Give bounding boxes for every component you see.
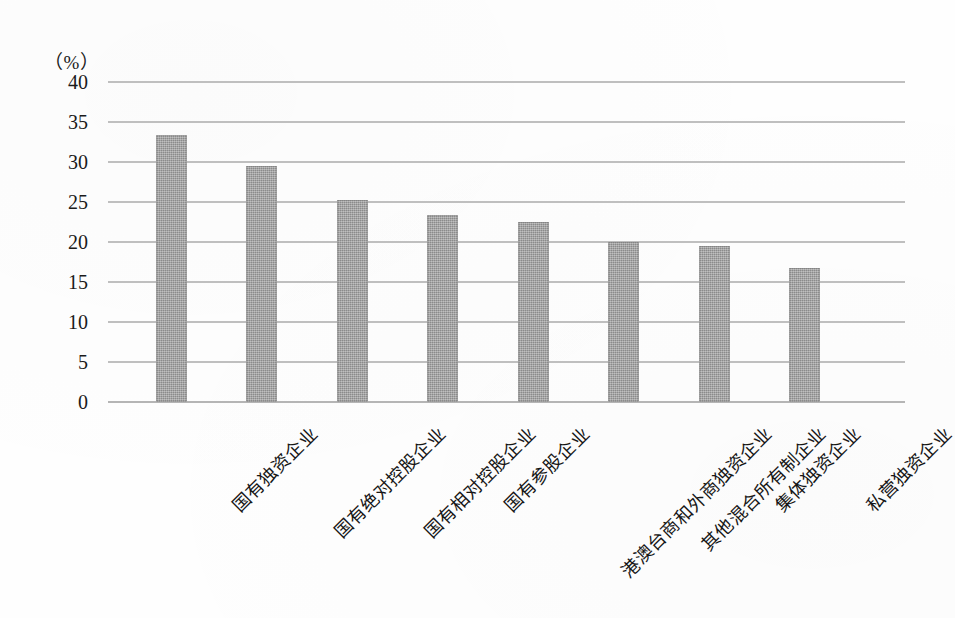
x-axis-tick-label: 国有独资企业 [230, 424, 322, 516]
y-axis-unit-label: （%） [44, 47, 99, 74]
gridline [108, 201, 905, 203]
bar [246, 166, 277, 402]
y-axis-tick-label: 25 [42, 192, 88, 212]
gridline [108, 81, 905, 83]
axis-baseline [108, 401, 905, 403]
bar [337, 200, 368, 402]
gridline [108, 321, 905, 323]
bar [608, 242, 639, 402]
y-axis-tick-label: 5 [42, 352, 88, 372]
gridline [108, 121, 905, 123]
y-axis-tick-label: 20 [42, 232, 88, 252]
y-axis-tick-label: 35 [42, 112, 88, 132]
x-axis-tick-label: 私营独资企业 [863, 424, 955, 516]
gridline [108, 281, 905, 283]
bar [156, 135, 187, 402]
y-axis-tick-label: 40 [42, 72, 88, 92]
gridline [108, 161, 905, 163]
y-axis-tick-label: 0 [42, 392, 88, 412]
gridline [108, 241, 905, 243]
y-axis-tick-label: 10 [42, 312, 88, 332]
bar-chart: （%） 0510152025303540 国有独资企业国有绝对控股企业国有相对控… [0, 0, 955, 618]
y-axis-tick-label: 30 [42, 152, 88, 172]
bar [699, 246, 730, 402]
bar [789, 268, 820, 402]
gridline [108, 361, 905, 363]
y-axis-tick-label: 15 [42, 272, 88, 292]
bar [427, 215, 458, 402]
bar [518, 222, 549, 402]
